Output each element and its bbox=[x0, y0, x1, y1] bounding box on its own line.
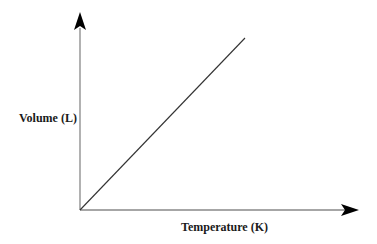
data-line bbox=[80, 38, 245, 210]
y-axis-label: Volume (L) bbox=[19, 111, 77, 126]
x-axis-label: Temperature (K) bbox=[181, 220, 268, 235]
y-axis-arrow-icon bbox=[74, 12, 86, 30]
